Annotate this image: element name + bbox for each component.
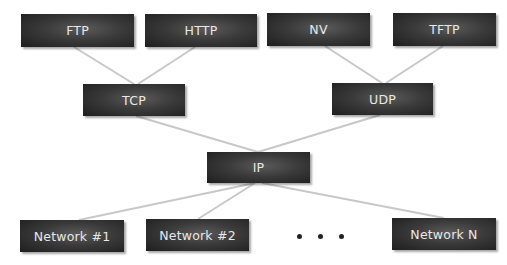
node-netn: Network N: [392, 218, 496, 250]
node-nv: NV: [267, 13, 370, 46]
node-label: TFTP: [429, 22, 460, 37]
node-ip: IP: [207, 152, 310, 183]
node-label: Network #2: [159, 228, 236, 243]
edge-nv-udp: [325, 46, 382, 83]
node-net1: Network #1: [20, 220, 124, 252]
edge-tftp-udp: [386, 46, 443, 83]
node-label: FTP: [66, 23, 89, 38]
edge-ip-net1: [79, 183, 255, 220]
node-label: UDP: [369, 92, 396, 107]
node-tcp: TCP: [83, 84, 185, 116]
edge-ftp-tcp: [74, 47, 134, 84]
dot: [318, 234, 323, 239]
node-udp: UDP: [332, 83, 433, 115]
dot: [339, 234, 344, 239]
edge-http-tcp: [138, 47, 195, 84]
edge-udp-ip: [258, 115, 380, 152]
edge-ip-netn: [262, 183, 444, 218]
node-http: HTTP: [145, 14, 257, 47]
protocol-diagram: FTPHTTPNVTFTPTCPUDPIPNetwork #1Network #…: [0, 0, 507, 265]
node-label: IP: [253, 160, 265, 175]
ellipsis-dots: [297, 234, 344, 239]
node-tftp: TFTP: [393, 13, 496, 46]
node-net2: Network #2: [146, 219, 249, 251]
node-label: NV: [309, 22, 327, 37]
node-label: HTTP: [185, 23, 218, 38]
node-label: Network N: [410, 227, 477, 242]
dot: [297, 234, 302, 239]
node-ftp: FTP: [21, 14, 134, 47]
node-label: Network #1: [34, 229, 111, 244]
node-label: TCP: [122, 93, 146, 108]
edge-tcp-ip: [136, 116, 258, 152]
